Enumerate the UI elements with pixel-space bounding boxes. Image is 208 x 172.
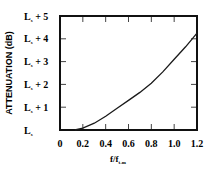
y-tick-label: Ls + 4 — [24, 33, 48, 45]
x-axis-label: f/ft-m — [110, 154, 127, 165]
y-tick-label: Ls — [24, 125, 33, 137]
y-tick-label: Ls + 5 — [24, 11, 48, 23]
y-tick-label: Ls + 2 — [24, 79, 48, 91]
x-tick-label: 0.6 — [122, 138, 135, 149]
attenuation-curve — [75, 33, 197, 130]
y-axis-ticks: LsLs + 1Ls + 2Ls + 3Ls + 4Ls + 5 — [24, 11, 197, 137]
x-tick-label: 0.8 — [145, 138, 158, 149]
x-tick-label: 1.2 — [191, 138, 204, 149]
x-tick-label: 0 — [58, 138, 63, 149]
x-tick-label: 0.4 — [99, 138, 112, 149]
attenuation-chart: LsLs + 1Ls + 2Ls + 3Ls + 4Ls + 5 00.20.4… — [0, 0, 208, 172]
x-tick-label: 1.0 — [168, 138, 181, 149]
y-tick-label: Ls + 3 — [24, 56, 48, 68]
y-tick-label: Ls + 1 — [24, 102, 48, 114]
y-axis-label: ATTENUATION (dB) — [4, 31, 14, 115]
x-tick-label: 0.2 — [77, 138, 90, 149]
plot-frame — [60, 16, 197, 130]
